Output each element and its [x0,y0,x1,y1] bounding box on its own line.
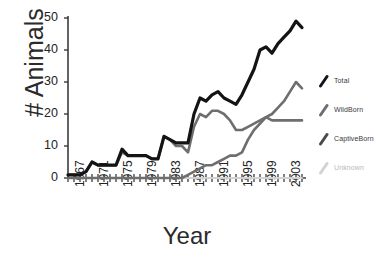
legend-label: WildBorn [334,106,363,113]
legend-label: CaptiveBorn [334,135,374,142]
axis-lines [68,16,306,178]
line-chart-figure: # Animals Year 01020304050 1967197119751… [0,0,389,260]
legend-item-total[interactable]: Total [318,66,389,95]
legend-line-swatch-icon [318,74,330,88]
chart-legend: TotalWildBornCaptiveBornUnknown [318,66,389,182]
legend-label: Total [334,77,349,84]
legend-item-wildborn[interactable]: WildBorn [318,95,389,124]
series-line-total [68,21,302,175]
legend-item-captiveborn[interactable]: CaptiveBorn [318,124,389,153]
legend-line-swatch-icon [318,132,330,146]
legend-line-swatch-icon [318,161,330,175]
legend-label: Unknown [334,164,364,171]
legend-line-swatch-icon [318,103,330,117]
legend-item-unknown[interactable]: Unknown [318,153,389,182]
